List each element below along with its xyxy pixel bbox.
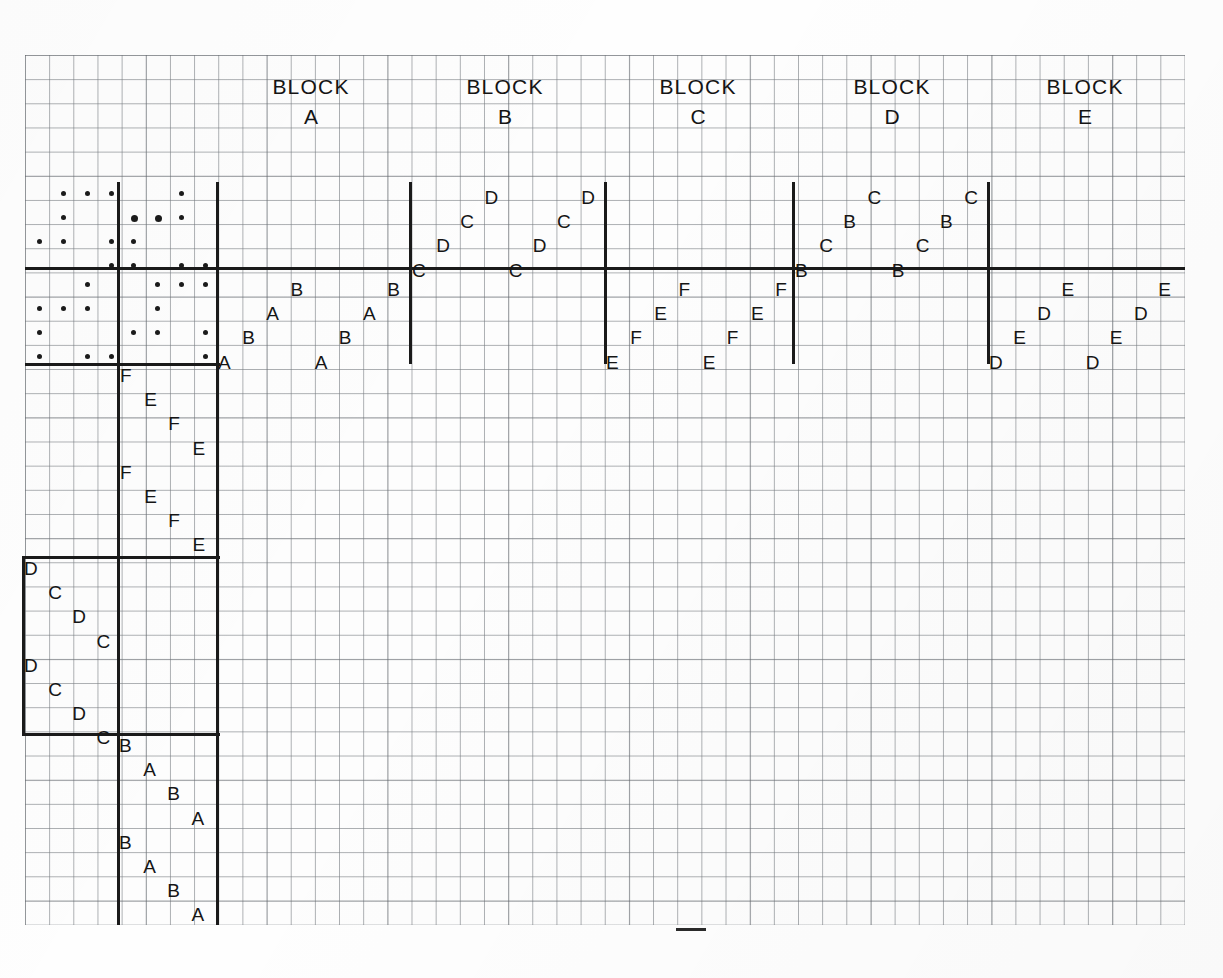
treatment-letter: C — [916, 234, 940, 258]
treatment-letter: A — [192, 807, 216, 831]
dot-plot-upper-right — [122, 182, 211, 267]
dot-plot-upper-left — [28, 182, 117, 267]
block-caption-a: BLOCK A — [247, 72, 375, 132]
treatment-letter: B — [940, 210, 964, 234]
plot-dot — [131, 330, 136, 335]
treatment-letter: B — [387, 278, 411, 302]
block-caption-a-word: BLOCK — [247, 72, 375, 102]
treatment-letter: B — [167, 782, 191, 806]
treatment-letter: C — [48, 678, 72, 702]
plot-dot — [109, 354, 114, 359]
block-caption-e-word: BLOCK — [1021, 72, 1149, 102]
treatment-letter: D — [581, 186, 605, 210]
scanned-sheet: BLOCK A BLOCK B BLOCK C BLOCK D BLOCK E … — [0, 0, 1223, 978]
plot-dot — [155, 330, 160, 335]
block-caption-c: BLOCK C — [634, 72, 762, 132]
treatment-letter: E — [193, 533, 217, 557]
treatment-letter: E — [144, 485, 168, 509]
dot-plot-lower-left — [28, 273, 117, 361]
plot-dot — [37, 239, 42, 244]
treatment-letter: E — [751, 302, 775, 326]
rule-vertical-left-edge — [22, 556, 25, 736]
treatment-letter: D — [1086, 351, 1110, 375]
treatment-letter: C — [97, 630, 121, 654]
treatment-letter: D — [533, 234, 557, 258]
treatment-letter: C — [460, 210, 484, 234]
plot-dot — [85, 191, 90, 196]
treatment-letter: B — [119, 831, 143, 855]
treatment-letter: B — [843, 210, 867, 234]
treatment-letter: D — [24, 654, 48, 678]
treatment-letter: A — [266, 302, 290, 326]
rule-vertical-col-left — [117, 182, 120, 925]
treatment-letter: E — [1110, 326, 1134, 350]
plot-dot — [203, 263, 208, 268]
plot-dot — [61, 215, 66, 220]
treatment-letter: F — [120, 461, 144, 485]
block-caption-d: BLOCK D — [828, 72, 956, 132]
plot-dot — [179, 263, 184, 268]
treatment-letter: A — [143, 855, 167, 879]
block-caption-a-letter: A — [247, 102, 375, 132]
treatment-letter: F — [727, 326, 751, 350]
dot-plot-lower-right — [122, 273, 211, 361]
block-caption-b-word: BLOCK — [441, 72, 569, 102]
plot-dot — [61, 191, 66, 196]
treatment-letter: C — [819, 234, 843, 258]
treatment-letter: E — [654, 302, 678, 326]
block-caption-d-letter: D — [828, 102, 956, 132]
block-caption-c-letter: C — [634, 102, 762, 132]
bottom-ink-smudge — [676, 928, 706, 931]
plot-dot — [131, 263, 136, 268]
treatment-letter: F — [120, 364, 144, 388]
treatment-letter: C — [412, 259, 436, 283]
plot-dot — [131, 215, 138, 222]
treatment-letter: B — [339, 326, 363, 350]
treatment-letter: E — [1013, 326, 1037, 350]
treatment-letter: D — [24, 557, 48, 581]
plot-dot — [61, 239, 66, 244]
treatment-letter: E — [1158, 278, 1182, 302]
treatment-letter: E — [193, 437, 217, 461]
treatment-letter: D — [1134, 302, 1158, 326]
treatment-letter: D — [989, 351, 1013, 375]
treatment-letter: F — [630, 326, 654, 350]
plot-dot — [203, 282, 208, 287]
plot-dot — [155, 306, 160, 311]
plot-dot — [203, 330, 208, 335]
rule-horizontal-mid — [22, 556, 220, 559]
treatment-letter: B — [167, 879, 191, 903]
treatment-letter: A — [218, 351, 242, 375]
treatment-letter: C — [868, 186, 892, 210]
treatment-letter: A — [315, 351, 339, 375]
plot-dot — [179, 282, 184, 287]
treatment-letter: E — [1062, 278, 1086, 302]
treatment-letter: F — [168, 412, 192, 436]
treatment-letter: B — [242, 326, 266, 350]
treatment-letter: F — [679, 278, 703, 302]
plot-dot — [109, 263, 114, 268]
treatment-letter: C — [48, 581, 72, 605]
plot-dot — [109, 191, 114, 196]
plot-dot — [85, 354, 90, 359]
plot-dot — [179, 215, 184, 220]
plot-dot — [85, 306, 90, 311]
plot-dot — [155, 215, 162, 222]
treatment-letter: E — [606, 351, 630, 375]
plot-dot — [61, 306, 66, 311]
treatment-letter: C — [964, 186, 988, 210]
treatment-letter: E — [703, 351, 727, 375]
plot-dot — [203, 354, 208, 359]
treatment-letter: D — [436, 234, 460, 258]
treatment-letter: A — [363, 302, 387, 326]
plot-dot — [179, 191, 184, 196]
plot-dot — [109, 239, 114, 244]
treatment-letter: B — [795, 259, 819, 283]
treatment-letter: F — [168, 509, 192, 533]
block-caption-c-word: BLOCK — [634, 72, 762, 102]
block-caption-e-letter: E — [1021, 102, 1149, 132]
treatment-letter: A — [143, 758, 167, 782]
treatment-letter: D — [485, 186, 509, 210]
block-caption-b-letter: B — [441, 102, 569, 132]
block-caption-b: BLOCK B — [441, 72, 569, 132]
